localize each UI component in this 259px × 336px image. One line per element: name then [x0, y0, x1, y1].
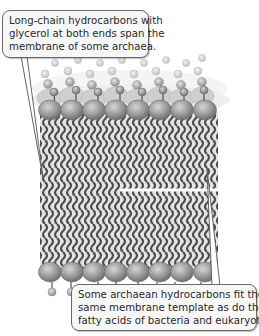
callout-archaea-bilayer: Some archaean hydrocarbons fit the same … [71, 284, 257, 331]
callout-top-pointer [21, 56, 43, 178]
callout-top-line-1: Long-chain hydrocarbons with [9, 14, 142, 27]
callout-bottom-line-1: Some archaean hydrocarbons fit the [78, 288, 250, 301]
callout-archaea-monolayer: Long-chain hydrocarbons with glycerol at… [2, 10, 149, 58]
callout-bottom-line-2: same membrane template as do the [78, 301, 250, 314]
callout-top-line-3: membrane of some archaea. [9, 40, 142, 53]
callout-top-line-2: glycerol at both ends span the [9, 27, 142, 40]
callout-bottom-line-3: fatty acids of bacteria and eukaryotes. [78, 314, 250, 327]
archaea-membrane-figure: Long-chain hydrocarbons with glycerol at… [0, 0, 259, 336]
